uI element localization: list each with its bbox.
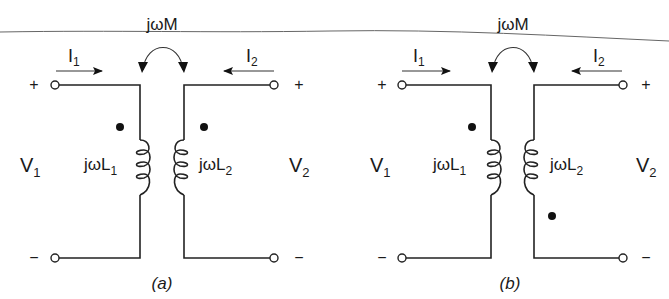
terminal-bottom-right: [619, 254, 627, 262]
arc-arrowhead-left-icon: [138, 62, 148, 73]
panel-a: jωM I1 I2 + + − − V1 V2: [20, 15, 310, 293]
terminal-top-right: [270, 81, 278, 89]
polarity-dot-l2: [548, 212, 556, 220]
polarity-bottom-left: −: [29, 249, 38, 266]
polarity-top-right: +: [294, 76, 303, 93]
panel-b: jωM I1 I2 + + − − V1 V2 jωL1 jωL2 (b): [370, 15, 657, 293]
polarity-bottom-left: −: [377, 249, 386, 266]
polarity-dot-l1: [116, 123, 124, 131]
current-i1-label: I1: [413, 46, 425, 69]
current-i2-label: I2: [593, 46, 605, 69]
arc-arrowhead-right-icon: [178, 62, 188, 73]
terminal-bottom-right: [270, 254, 278, 262]
mutual-coupling-arc-icon: [143, 48, 183, 71]
arc-arrowhead-right-icon: [528, 62, 538, 73]
terminal-top-left: [398, 81, 406, 89]
polarity-top-right: +: [641, 76, 650, 93]
polarity-bottom-right: −: [641, 249, 650, 266]
top-rule: [0, 31, 669, 41]
terminal-top-right: [619, 81, 627, 89]
inductor-l1-label: jωL1: [432, 155, 467, 178]
mutual-inductance-label: jωM: [496, 15, 528, 34]
inductor-l1-coil-icon: [137, 140, 151, 195]
voltage-v2-label: V2: [636, 154, 657, 180]
voltage-v2-label: V2: [289, 154, 310, 180]
panel-a-caption: (a): [152, 274, 173, 293]
polarity-top-left: +: [377, 76, 386, 93]
inductor-l2-coil-icon: [524, 140, 538, 195]
inductor-l2-label: jωL2: [549, 155, 584, 178]
voltage-v1-label: V1: [370, 154, 391, 180]
inductor-l1-label: jωL1: [83, 155, 118, 178]
inductor-l1-coil-icon: [488, 140, 502, 195]
mutual-coupling-arc-icon: [493, 48, 533, 71]
polarity-top-left: +: [29, 76, 38, 93]
current-i1-label: I1: [68, 46, 80, 69]
terminal-bottom-left: [51, 254, 59, 262]
terminal-bottom-left: [398, 254, 406, 262]
polarity-dot-l1: [468, 123, 476, 131]
polarity-bottom-right: −: [294, 249, 303, 266]
inductor-l2-coil-icon: [174, 140, 188, 195]
mutual-inductance-label: jωM: [145, 15, 177, 34]
voltage-v1-label: V1: [20, 154, 41, 180]
panel-b-caption: (b): [500, 274, 521, 293]
arc-arrowhead-left-icon: [488, 62, 498, 73]
polarity-dot-l2: [200, 123, 208, 131]
coupled-inductors-figure: jωM I1 I2 + + − − V1 V2: [0, 0, 669, 299]
current-i2-label: I2: [246, 46, 258, 69]
inductor-l2-label: jωL2: [198, 155, 233, 178]
terminal-top-left: [51, 81, 59, 89]
